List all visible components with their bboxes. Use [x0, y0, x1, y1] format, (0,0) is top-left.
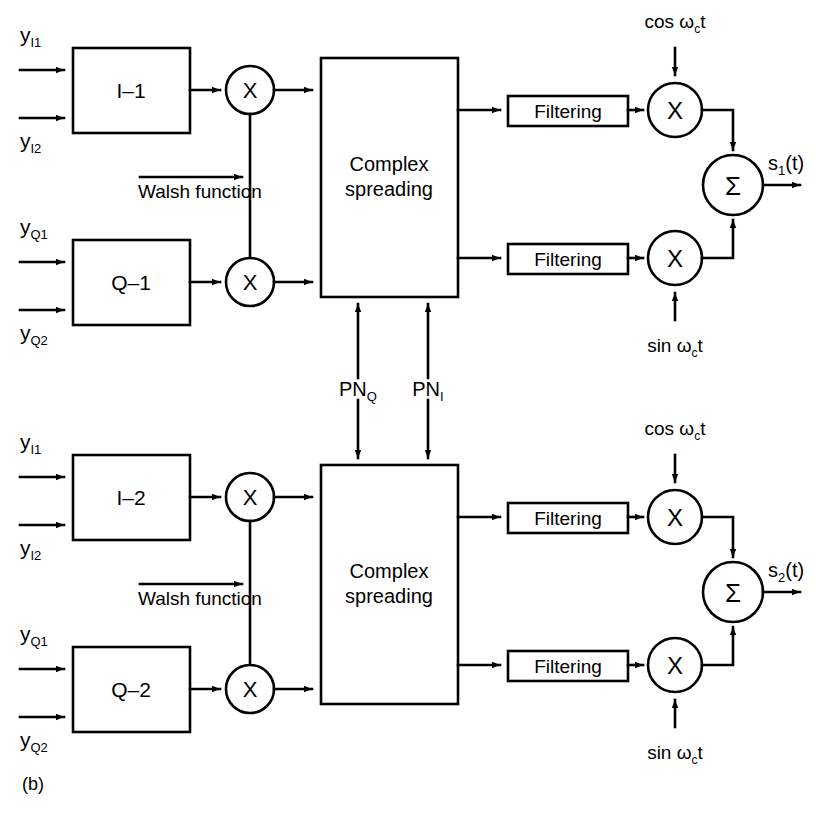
- label-carrier-mult-cos-b1: X: [667, 97, 683, 124]
- label-y-Q2-b1: yQ2: [20, 321, 48, 348]
- label-y-Q2-b2: yQ2: [20, 728, 48, 755]
- label-summer-b1: Σ: [725, 171, 741, 201]
- label-y-Q1-b1: yQ1: [20, 215, 48, 242]
- label-block-i-2: I–2: [116, 486, 145, 509]
- label-y-I1-b1: yI1: [20, 23, 41, 50]
- label-complex-1: Complex: [350, 153, 429, 175]
- label-spreading-2: spreading: [345, 585, 433, 607]
- label-multiplier-q-b2: X: [243, 677, 258, 702]
- label-filtering-q-b2: Filtering: [534, 656, 602, 677]
- label-carrier-mult-cos-b2: X: [667, 504, 683, 531]
- label-block-q-2: Q–2: [111, 678, 151, 701]
- figure-canvas: yI1 yI2 yQ1 yQ2 I–1 Q–1 X X Walsh functi…: [0, 0, 818, 813]
- label-cos-carrier-b1: cos ωct: [645, 11, 707, 36]
- label-y-Q1-b2: yQ1: [20, 622, 48, 649]
- label-carrier-mult-sin-b1: X: [667, 245, 683, 272]
- label-spreading-1: spreading: [345, 178, 433, 200]
- label-filtering-i-b2: Filtering: [534, 508, 602, 529]
- wire-sinmult-to-sum-b2: [702, 627, 733, 665]
- label-filtering-i-b1: Filtering: [534, 101, 602, 122]
- label-summer-b2: Σ: [725, 578, 741, 608]
- label-output-s2: s2(t): [768, 559, 804, 585]
- label-y-I2-b1: yI2: [20, 129, 41, 156]
- figure-caption: (b): [22, 774, 44, 794]
- label-block-q-1: Q–1: [111, 271, 151, 294]
- label-block-i-1: I–1: [116, 79, 145, 102]
- label-walsh-b1: Walsh function: [138, 181, 262, 202]
- label-output-s1: s1(t): [768, 152, 804, 178]
- label-multiplier-i-b2: X: [243, 485, 258, 510]
- label-carrier-mult-sin-b2: X: [667, 652, 683, 679]
- label-y-I2-b2: yI2: [20, 536, 41, 563]
- label-multiplier-i-b1: X: [243, 78, 258, 103]
- wire-cosmult-to-sum-b1: [702, 110, 733, 150]
- label-multiplier-q-b1: X: [243, 270, 258, 295]
- label-filtering-q-b1: Filtering: [534, 249, 602, 270]
- label-walsh-b2: Walsh function: [138, 588, 262, 609]
- label-complex-2: Complex: [350, 560, 429, 582]
- block-diagram-svg: yI1 yI2 yQ1 yQ2 I–1 Q–1 X X Walsh functi…: [0, 0, 818, 813]
- label-sin-carrier-b2: sin ωct: [647, 742, 703, 767]
- label-cos-carrier-b2: cos ωct: [645, 418, 707, 443]
- wire-sinmult-to-sum-b1: [702, 220, 733, 258]
- label-sin-carrier-b1: sin ωct: [647, 335, 703, 360]
- wire-cosmult-to-sum-b2: [702, 517, 733, 557]
- label-y-I1-b2: yI1: [20, 430, 41, 457]
